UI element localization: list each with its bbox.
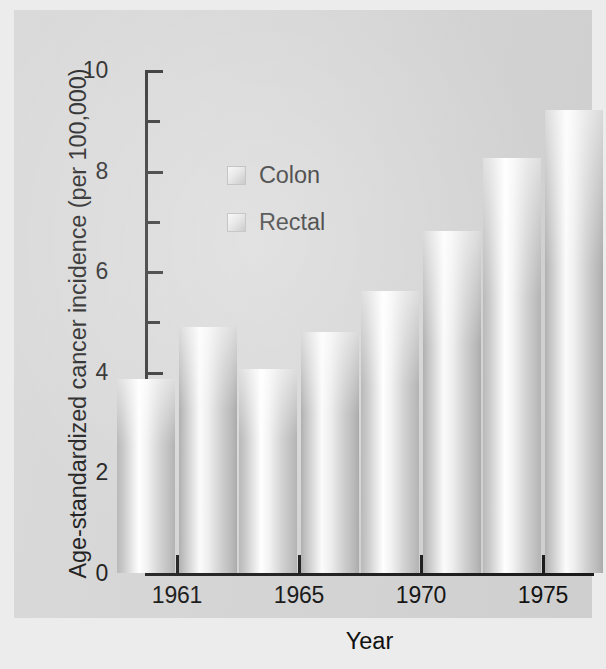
bar-1975-colon (483, 158, 541, 573)
x-tick-label-1970: 1970 (376, 582, 466, 609)
x-tick-label-1975: 1975 (498, 582, 588, 609)
x-axis-line (145, 573, 594, 576)
legend-swatch-rectal-icon (227, 213, 246, 232)
y-tick-major-8 (148, 171, 163, 174)
bar-1970-rectal (423, 231, 481, 573)
legend-swatch-colon-icon (227, 166, 246, 185)
y-tick-major-0 (148, 573, 163, 576)
bar-1961-colon (117, 379, 175, 573)
legend-item-rectal: Rectal (227, 205, 325, 239)
bar-1965-colon (239, 369, 297, 573)
y-tick-major-6 (148, 271, 163, 274)
x-axis-title: Year (145, 628, 594, 655)
y-tick-minor-5 (148, 321, 160, 324)
y-tick-minor-9 (148, 120, 160, 123)
bar-1965-rectal (301, 332, 359, 573)
y-tick-major-4 (148, 372, 163, 375)
legend-label-rectal: Rectal (259, 209, 325, 236)
legend-item-colon: Colon (227, 158, 325, 192)
y-axis-title: Age-standardized cancer incidence (per 1… (65, 64, 92, 584)
chart-plate: 10 8 6 4 2 0 1961 1965 1970 1975 (14, 10, 592, 618)
bar-1975-rectal (545, 110, 603, 573)
x-tick-label-1961: 1961 (132, 582, 222, 609)
legend: Colon Rectal (227, 158, 325, 252)
y-tick-major-10 (148, 70, 163, 73)
bar-1970-colon (361, 291, 419, 573)
x-tick-label-1965: 1965 (254, 582, 344, 609)
bar-1961-rectal (179, 327, 237, 573)
legend-label-colon: Colon (259, 162, 320, 189)
figure: 10 8 6 4 2 0 1961 1965 1970 1975 (0, 0, 606, 669)
y-tick-minor-7 (148, 221, 160, 224)
